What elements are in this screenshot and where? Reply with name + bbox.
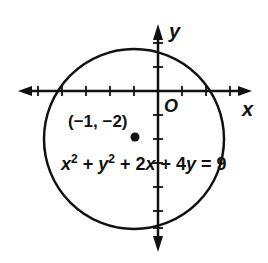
origin-label: O: [164, 96, 178, 116]
center-point-label: (−1, −2): [68, 112, 128, 131]
x-axis: [18, 86, 252, 96]
y-axis-label: y: [168, 20, 181, 42]
circle-equation: x2 + y2 + 2x + 4y = 9: [60, 152, 227, 174]
x-axis-left-arrow-icon: [18, 86, 32, 96]
x-axis-right-arrow-icon: [238, 86, 252, 96]
x-axis-label: x: [241, 98, 254, 120]
y-axis: [153, 24, 163, 252]
y-axis-down-arrow-icon: [153, 236, 163, 252]
circle-graph-diagram: y x O (−1, −2) x2 + y2 + 2x + 4y = 9: [0, 0, 268, 263]
center-point: [131, 133, 140, 142]
y-axis-up-arrow-icon: [153, 24, 163, 40]
